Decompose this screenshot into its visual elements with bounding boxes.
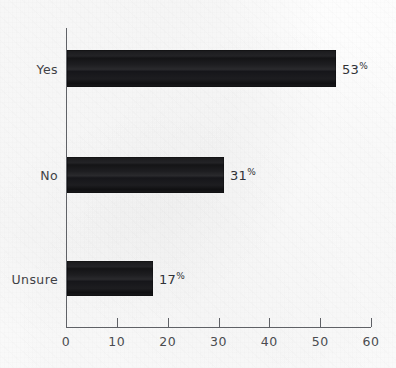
value-label-yes: 53% bbox=[342, 60, 368, 76]
x-tick-label-0: 0 bbox=[62, 334, 71, 349]
x-tick-50 bbox=[320, 318, 321, 327]
x-tick-10 bbox=[117, 318, 118, 327]
value-suffix-yes: % bbox=[359, 60, 368, 70]
category-label-no: No bbox=[0, 168, 58, 183]
x-tick-label-60: 60 bbox=[362, 334, 379, 349]
bar-chart: 0 10 20 30 40 50 60 Yes 53% No 31% Unsur… bbox=[0, 0, 396, 368]
x-tick-label-50: 50 bbox=[312, 334, 329, 349]
x-tick-0 bbox=[66, 318, 67, 327]
value-number-no: 31 bbox=[230, 168, 247, 183]
bar-yes bbox=[67, 50, 336, 87]
value-number-yes: 53 bbox=[342, 62, 359, 77]
value-label-no: 31% bbox=[230, 167, 256, 183]
x-tick-label-30: 30 bbox=[210, 334, 227, 349]
x-tick-40 bbox=[269, 318, 270, 327]
x-tick-label-40: 40 bbox=[261, 334, 278, 349]
category-label-unsure: Unsure bbox=[0, 271, 58, 286]
x-tick-label-20: 20 bbox=[159, 334, 176, 349]
bar-unsure bbox=[67, 261, 153, 296]
x-tick-60 bbox=[371, 318, 372, 327]
x-tick-20 bbox=[168, 318, 169, 327]
value-suffix-unsure: % bbox=[176, 270, 185, 280]
value-label-unsure: 17% bbox=[159, 270, 185, 286]
value-number-unsure: 17 bbox=[159, 272, 176, 287]
category-label-yes: Yes bbox=[0, 61, 58, 76]
value-suffix-no: % bbox=[247, 167, 256, 177]
x-tick-30 bbox=[219, 318, 220, 327]
bar-no bbox=[67, 157, 224, 193]
x-tick-label-10: 10 bbox=[108, 334, 125, 349]
